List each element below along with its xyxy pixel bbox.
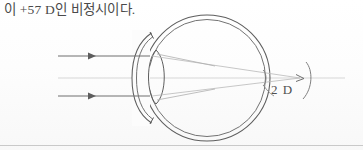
ray-arrowhead-upper-icon bbox=[88, 53, 96, 60]
focal-point-arc bbox=[303, 62, 311, 99]
cornea-region-mask bbox=[132, 30, 150, 126]
converging-ray-upper bbox=[152, 56, 300, 78]
crystalline-lens bbox=[149, 50, 165, 104]
eye-optics-diagram bbox=[0, 0, 363, 150]
ray-arrowhead-lower-icon bbox=[88, 93, 96, 100]
refracted-segment-upper bbox=[157, 54, 215, 66]
figure-page: 이 +57 D인 비정시이다. bbox=[0, 0, 363, 150]
dioptre-label: 2 D bbox=[271, 82, 293, 98]
